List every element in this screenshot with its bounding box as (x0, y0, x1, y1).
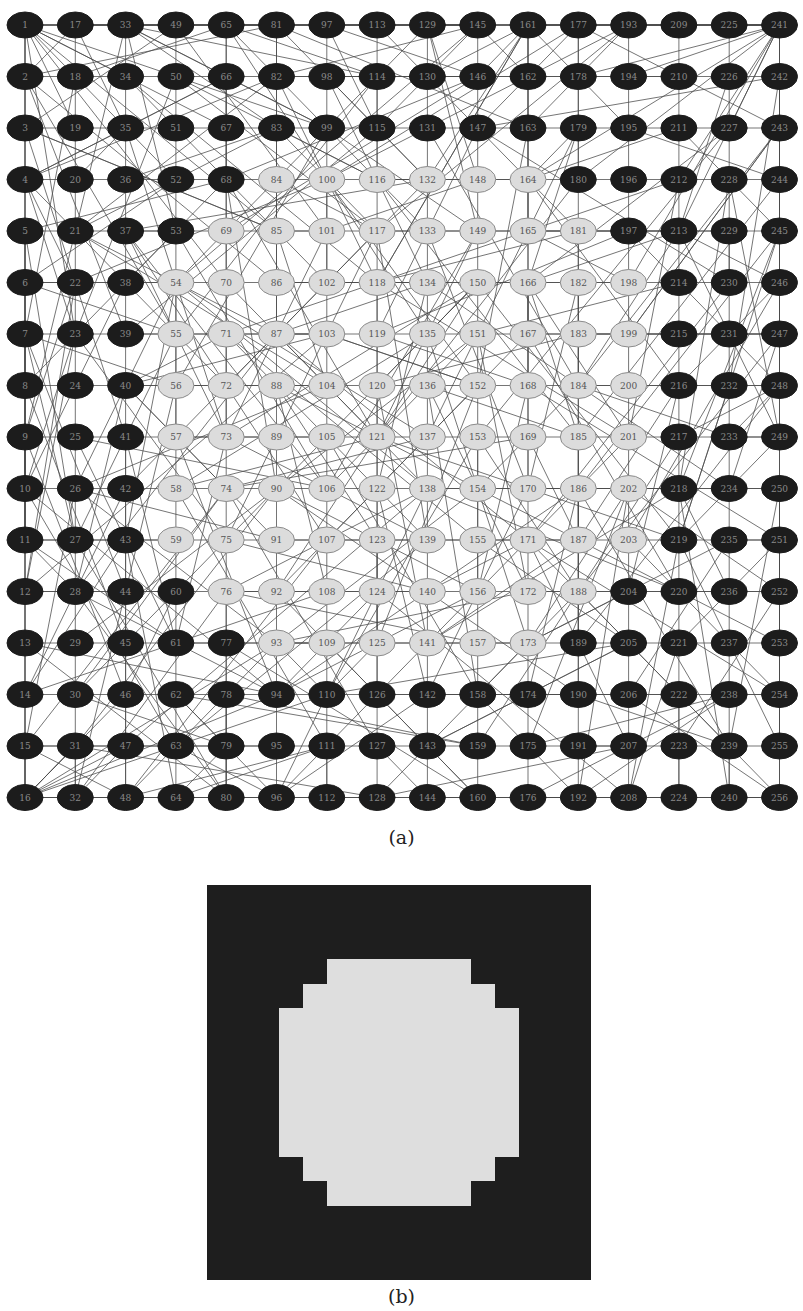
node-dark: 13 (7, 630, 43, 656)
pixel-dark (495, 1181, 519, 1206)
pixel-dark (207, 1083, 231, 1108)
node-dark: 240 (711, 785, 747, 811)
pixel-dark (543, 1033, 567, 1058)
node-light: 136 (409, 373, 445, 399)
pixel-dark (519, 959, 543, 984)
pixel-light (351, 1132, 375, 1157)
pixel-dark (399, 1255, 423, 1280)
pixel-light (375, 959, 399, 984)
node-label: 100 (318, 175, 335, 185)
pixel-dark (519, 1033, 543, 1058)
node-label: 247 (771, 329, 788, 339)
node-dark: 130 (409, 64, 445, 90)
pixel-dark (351, 1255, 375, 1280)
node-label: 127 (369, 741, 386, 751)
node-light: 103 (309, 321, 345, 347)
pixel-light (327, 1033, 351, 1058)
node-light: 165 (510, 218, 546, 244)
pixel-dark (351, 934, 375, 959)
pixel-light (423, 959, 447, 984)
node-label: 24 (70, 381, 82, 391)
node-light: 86 (259, 270, 295, 296)
pixel-dark (231, 1058, 255, 1083)
node-label: 26 (70, 484, 82, 494)
node-label: 202 (620, 484, 637, 494)
node-light: 70 (208, 270, 244, 296)
pixel-dark (231, 1132, 255, 1157)
pixel-dark (519, 1231, 543, 1256)
node-dark: 176 (510, 785, 546, 811)
node-label: 222 (670, 690, 687, 700)
pixel-dark (351, 1206, 375, 1231)
pixel-dark (543, 1181, 567, 1206)
node-label: 51 (170, 123, 181, 133)
node-light: 122 (359, 476, 395, 502)
node-dark: 254 (762, 682, 798, 708)
node-label: 194 (620, 72, 637, 82)
graph-edge (528, 231, 679, 283)
node-label: 190 (570, 690, 587, 700)
node-dark: 98 (309, 64, 345, 90)
node-dark: 18 (57, 64, 93, 90)
node-label: 211 (670, 123, 687, 133)
pixel-light (375, 984, 399, 1009)
node-dark: 253 (762, 630, 798, 656)
pixel-light (495, 1083, 519, 1108)
node-label: 225 (721, 20, 738, 30)
pixel-light (399, 1083, 423, 1108)
node-label: 70 (220, 278, 232, 288)
graph-edge (126, 128, 277, 180)
node-label: 177 (570, 20, 587, 30)
pixel-light (399, 1033, 423, 1058)
pixel-dark (447, 910, 471, 935)
node-dark: 52 (158, 167, 194, 193)
node-label: 216 (670, 381, 687, 391)
graph-edge (176, 592, 327, 644)
pixel-light (351, 1008, 375, 1033)
node-label: 201 (620, 432, 637, 442)
node-light: 87 (259, 321, 295, 347)
graph-edge (427, 128, 578, 386)
pixel-dark (207, 1008, 231, 1033)
pixel-dark (231, 910, 255, 935)
pixel-dark (207, 1157, 231, 1182)
node-dark: 142 (409, 682, 445, 708)
node-light: 149 (460, 218, 496, 244)
node-label: 64 (170, 793, 182, 803)
node-label: 156 (469, 587, 486, 597)
node-dark: 113 (359, 12, 395, 38)
node-label: 114 (369, 72, 386, 82)
node-light: 173 (510, 630, 546, 656)
node-label: 187 (570, 535, 587, 545)
pixel-light (423, 984, 447, 1009)
graph-edge (528, 128, 679, 180)
node-dark: 177 (560, 12, 596, 38)
node-dark: 110 (309, 682, 345, 708)
node-light: 58 (158, 476, 194, 502)
pixel-light (327, 1132, 351, 1157)
node-label: 20 (70, 175, 82, 185)
pixel-dark (351, 885, 375, 910)
pixel-dark (519, 1008, 543, 1033)
node-label: 136 (419, 381, 436, 391)
node-light: 76 (208, 579, 244, 605)
node-label: 80 (220, 793, 232, 803)
pixel-light (303, 984, 327, 1009)
node-label: 60 (170, 587, 182, 597)
pixel-dark (495, 910, 519, 935)
node-dark: 43 (108, 527, 144, 553)
node-label: 37 (120, 226, 132, 236)
pixel-dark (495, 1231, 519, 1256)
node-dark: 33 (108, 12, 144, 38)
node-label: 219 (670, 535, 687, 545)
node-label: 170 (519, 484, 536, 494)
pixel-light (351, 1083, 375, 1108)
pixel-dark (231, 984, 255, 1009)
node-label: 30 (70, 690, 82, 700)
node-label: 93 (271, 638, 283, 648)
node-label: 106 (318, 484, 335, 494)
pixel-light (399, 1132, 423, 1157)
node-label: 38 (120, 278, 132, 288)
node-light: 201 (611, 424, 647, 450)
graph-edge (25, 283, 75, 438)
